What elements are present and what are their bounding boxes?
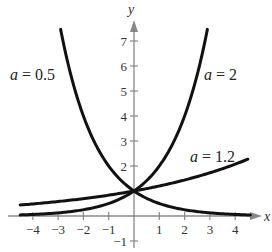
curve-label-eq: = 1.2 bbox=[198, 148, 235, 165]
y-tick-label: 5 bbox=[121, 84, 128, 99]
y-tick-label: 7 bbox=[121, 34, 128, 49]
y-tick-label: 2 bbox=[121, 159, 128, 174]
x-tick-label: −4 bbox=[26, 222, 40, 237]
y-tick-label: −1 bbox=[113, 234, 127, 249]
y-axis-label: y bbox=[126, 2, 135, 17]
curves bbox=[20, 29, 250, 215]
x-tick-label: 3 bbox=[207, 222, 214, 237]
curve-a-2 bbox=[20, 29, 207, 215]
x-tick-label: 2 bbox=[181, 222, 188, 237]
x-axis-label: x bbox=[263, 209, 271, 224]
x-tick-label: 1 bbox=[156, 222, 163, 237]
curve-label-var: a bbox=[10, 66, 18, 83]
curve-label-eq: = 0.5 bbox=[18, 66, 55, 83]
x-tick-label: −2 bbox=[76, 222, 90, 237]
x-axis-arrow bbox=[250, 212, 262, 220]
y-axis-arrow bbox=[130, 20, 138, 32]
curve-label-a-2: a = 2 bbox=[204, 66, 237, 83]
curve-label-eq: = 2 bbox=[212, 66, 237, 83]
exponential-functions-chart: x y −4−3−2−11234−1234567 a = 0.5 a = 2 a… bbox=[0, 0, 272, 252]
y-tick-label: 3 bbox=[121, 134, 128, 149]
x-tick-label: −3 bbox=[51, 222, 65, 237]
curve-label-a-1-2: a = 1.2 bbox=[190, 148, 235, 165]
y-tick-label: 6 bbox=[121, 59, 128, 74]
curve-label-var: a bbox=[204, 66, 212, 83]
y-tick-label: 4 bbox=[121, 109, 128, 124]
axes: x y bbox=[8, 2, 271, 248]
curve-label-a-0-5: a = 0.5 bbox=[10, 66, 55, 83]
curve-label-var: a bbox=[190, 148, 198, 165]
x-tick-label: 4 bbox=[232, 222, 239, 237]
